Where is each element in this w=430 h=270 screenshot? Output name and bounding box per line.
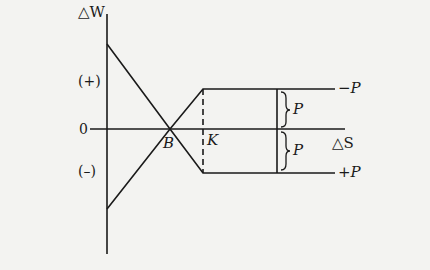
delta-w-vs-delta-s-diagram: △W (+) 0 (–) B K P P −P △S +P [0,0,430,270]
negative-region-label: (–) [78,164,96,178]
x-axis-label: △S [332,136,354,151]
upper-brace-icon [281,92,290,127]
upper-brace-label: P [293,102,303,117]
point-b-label: B [163,136,174,151]
lower-line-label: +P [338,165,361,180]
point-k-label: K [207,133,218,148]
lower-brace-label: P [293,143,303,158]
lower-brace-icon [281,132,290,170]
origin-label: 0 [79,122,88,136]
upper-line-label: −P [338,81,361,96]
positive-region-label: (+) [78,74,101,88]
y-axis-label: △W [78,5,105,20]
